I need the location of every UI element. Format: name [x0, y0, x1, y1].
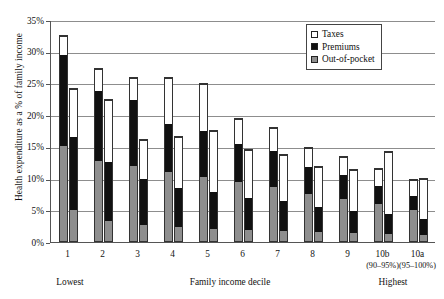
bar-b[interactable]: [349, 169, 358, 242]
segment-taxes: [175, 137, 182, 188]
bar-group: [374, 151, 393, 242]
legend-label-premiums: Premiums: [322, 42, 360, 52]
segment-out-of-pocket: [315, 232, 322, 241]
y-axis-tick-label: 10%: [0, 175, 44, 184]
segment-premiums: [305, 167, 312, 195]
bar-group: [94, 68, 113, 242]
bar-b[interactable]: [104, 99, 113, 242]
bar-b[interactable]: [314, 166, 323, 242]
bar-b[interactable]: [209, 130, 218, 242]
bar-a[interactable]: [164, 77, 173, 242]
segment-out-of-pocket: [95, 161, 102, 241]
bar-a[interactable]: [94, 68, 103, 242]
segment-out-of-pocket: [140, 225, 147, 241]
bar-a[interactable]: [234, 118, 243, 242]
bar-group: [164, 77, 183, 242]
segment-premiums: [235, 144, 242, 183]
segment-taxes: [140, 140, 147, 180]
bar-a[interactable]: [304, 147, 313, 242]
bar-a[interactable]: [129, 77, 138, 242]
bar-b[interactable]: [69, 88, 78, 242]
segment-premiums: [210, 192, 217, 229]
segment-out-of-pocket: [375, 204, 382, 241]
x-axis-tick-sublabel: (95–100%): [392, 261, 444, 270]
segment-taxes: [105, 100, 112, 163]
segment-out-of-pocket: [60, 146, 67, 241]
segment-out-of-pocket: [420, 235, 427, 241]
segment-premiums: [140, 179, 147, 224]
segment-out-of-pocket: [280, 231, 287, 241]
legend-label-taxes: Taxes: [322, 29, 344, 39]
bar-a[interactable]: [409, 179, 418, 242]
segment-taxes: [340, 157, 347, 175]
segment-out-of-pocket: [410, 210, 417, 241]
segment-out-of-pocket: [350, 233, 357, 241]
bar-b[interactable]: [279, 154, 288, 242]
y-axis-tick-label: 5%: [0, 207, 44, 216]
gridline: [51, 21, 435, 22]
segment-out-of-pocket: [175, 227, 182, 241]
bar-a[interactable]: [59, 35, 68, 242]
segment-out-of-pocket: [210, 229, 217, 241]
bar-a[interactable]: [269, 127, 278, 242]
segment-premiums: [165, 124, 172, 172]
segment-out-of-pocket: [385, 234, 392, 241]
bar-group: [304, 147, 323, 242]
segment-taxes: [210, 131, 217, 191]
segment-taxes: [200, 84, 207, 131]
bar-group: [199, 83, 218, 242]
segment-premiums: [70, 137, 77, 210]
bar-a[interactable]: [339, 156, 348, 242]
segment-out-of-pocket: [245, 230, 252, 241]
segment-taxes: [95, 69, 102, 90]
x-axis-left-end-label: Lowest: [40, 277, 100, 287]
y-axis-tick-mark: [46, 243, 50, 244]
segment-out-of-pocket: [130, 166, 137, 241]
segment-taxes: [60, 36, 67, 55]
segment-taxes: [165, 78, 172, 124]
segment-taxes: [70, 89, 77, 137]
segment-premiums: [315, 207, 322, 232]
segment-taxes: [245, 150, 252, 198]
segment-premiums: [410, 196, 417, 211]
y-axis-tick-label: 30%: [0, 48, 44, 57]
bar-group: [269, 127, 288, 242]
segment-out-of-pocket: [305, 194, 312, 241]
segment-premiums: [60, 55, 67, 145]
bar-group: [59, 35, 78, 242]
segment-taxes: [235, 119, 242, 144]
legend-item-premiums: Premiums: [311, 41, 375, 54]
bar-a[interactable]: [374, 168, 383, 242]
y-axis-tick-label: 15%: [0, 143, 44, 152]
legend-swatch-premiums-icon: [311, 43, 318, 50]
segment-taxes: [350, 170, 357, 211]
bar-group: [339, 156, 358, 242]
y-axis-tick-label: 25%: [0, 80, 44, 89]
segment-taxes: [375, 169, 382, 185]
legend-swatch-taxes-icon: [311, 31, 318, 38]
bar-b[interactable]: [419, 178, 428, 242]
y-axis-tick-label: 20%: [0, 112, 44, 121]
bar-b[interactable]: [174, 136, 183, 242]
segment-taxes: [410, 180, 417, 196]
y-axis-tick-label: 0%: [0, 239, 44, 248]
segment-premiums: [280, 201, 287, 231]
bar-group: [129, 77, 148, 242]
segment-out-of-pocket: [340, 199, 347, 241]
bar-b[interactable]: [244, 149, 253, 242]
bar-b[interactable]: [384, 151, 393, 242]
x-axis-right-end-label: Highest: [358, 277, 428, 287]
segment-premiums: [340, 175, 347, 199]
segment-premiums: [245, 198, 252, 230]
segment-taxes: [385, 152, 392, 215]
bar-b[interactable]: [139, 139, 148, 242]
segment-out-of-pocket: [165, 172, 172, 241]
segment-out-of-pocket: [270, 187, 277, 241]
segment-premiums: [130, 100, 137, 166]
segment-taxes: [305, 148, 312, 167]
segment-premiums: [375, 186, 382, 205]
legend: Taxes Premiums Out-of-pocket: [306, 24, 382, 70]
bar-a[interactable]: [199, 83, 208, 242]
segment-taxes: [130, 78, 137, 100]
x-axis-tick-label: 10a: [396, 249, 440, 259]
